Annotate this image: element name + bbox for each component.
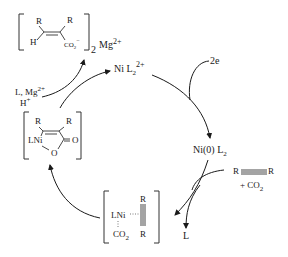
catalytic-cycle-diagram: R R H CO2− 2 Mg2+ Ni L22+ 2e Ni(0) L2 R … (0, 0, 288, 257)
cycle-arrow-regeneration (60, 71, 110, 108)
product-r-right: R (67, 15, 73, 25)
complex-r-top: R (140, 194, 146, 204)
ni-dication-label: Ni L22+ (114, 60, 145, 77)
alkyne-triple-bond (241, 170, 267, 174)
cycle-arrow-oxidative-coupling (50, 165, 100, 218)
lactone-metal: LNi (28, 135, 43, 145)
alkyne-reagent: R R + CO2 (233, 166, 274, 193)
product-counterion: Mg2+ (99, 37, 122, 50)
co2-reagent: + CO2 (240, 180, 264, 193)
alkyne-r-right: R (268, 166, 274, 176)
released-ligand: L (183, 230, 189, 241)
complex-metal: LNi (111, 210, 126, 220)
lactone-carbonyl-o: O (72, 135, 79, 145)
ni-zero-label: Ni(0) L2 (193, 144, 227, 158)
lactone-r-left: R (35, 116, 41, 126)
quench-reagents-line2: H+ (20, 96, 31, 108)
electron-input-arrow (189, 61, 209, 100)
coordinated-triple-bond (141, 204, 145, 226)
right-bracket (84, 14, 89, 50)
product-r-left: R (36, 16, 42, 26)
ligand-release-arrow (186, 185, 200, 228)
product-release-arrow (42, 60, 84, 97)
product-carboxylate: CO2− (64, 37, 80, 50)
left-bracket (19, 14, 24, 50)
lactone-ring-o: O (51, 148, 58, 158)
alkyne-r-left: R (233, 166, 239, 176)
complex-r-bottom: R (140, 229, 146, 239)
nickelalactone: R R LNi O O (24, 112, 81, 159)
lactone-r-right: R (66, 116, 72, 126)
left-bracket (104, 191, 109, 243)
cycle-arrow-coordination (175, 160, 208, 215)
product-carboxylate-salt: R R H CO2− 2 Mg2+ (19, 14, 122, 55)
right-bracket (154, 191, 159, 243)
alkyne-complex: LNi R R CO2 (104, 191, 159, 243)
cycle-arrow-reduction (152, 75, 210, 138)
complex-co2: CO2 (113, 229, 130, 242)
electrons-label: 2e (210, 55, 220, 66)
product-h: H (30, 37, 37, 47)
alkene-bond (39, 26, 65, 32)
product-multiplier: 2 (91, 44, 96, 55)
